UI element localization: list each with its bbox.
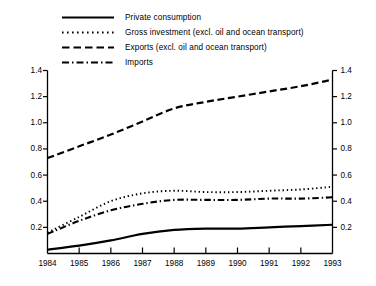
y-tick-label-left: 0.6: [14, 171, 42, 180]
x-tick-label: 1984: [38, 259, 56, 268]
y-tick-label-left: 1.2: [14, 92, 42, 101]
y-tick-label-left: 0.2: [14, 223, 42, 232]
y-tick-label-right: 1.0: [341, 118, 371, 127]
x-tick-label: 1991: [260, 259, 278, 268]
y-tick-label-right: 0.4: [341, 197, 371, 206]
y-tick-label-right: 1.4: [341, 66, 371, 75]
data-series-group: [48, 80, 333, 250]
x-tick-label: 1988: [165, 259, 183, 268]
y-tick-label-right: 0.2: [341, 223, 371, 232]
x-tick-label: 1989: [197, 259, 215, 268]
plot-area: [0, 0, 376, 286]
series-line-exports-excl-oil-and-ocean-transport: [48, 80, 333, 158]
series-line-private-consumption: [48, 225, 333, 250]
y-tick-label-right: 0.8: [341, 144, 371, 153]
x-tick-label: 1987: [133, 259, 151, 268]
y-tick-label-left: 0.4: [14, 197, 42, 206]
x-tick-label: 1993: [323, 259, 341, 268]
y-tick-label-left: 1.0: [14, 118, 42, 127]
y-tick-label-left: 1.4: [14, 66, 42, 75]
chart-figure: Private consumption Gross investment (ex…: [0, 0, 376, 286]
x-tick-label: 1990: [228, 259, 246, 268]
y-tick-label-right: 0.6: [341, 171, 371, 180]
x-tick-label: 1986: [102, 259, 120, 268]
x-tick-label: 1992: [292, 259, 310, 268]
y-tick-label-left: 0.8: [14, 144, 42, 153]
x-tick-label: 1985: [70, 259, 88, 268]
y-tick-label-right: 1.2: [341, 92, 371, 101]
